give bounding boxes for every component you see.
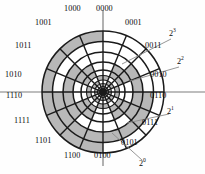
sector-code-label: 0110 (150, 91, 166, 100)
sector-code-label: 0001 (125, 18, 142, 27)
power-2-2-label: 22 (177, 55, 184, 66)
sector-code-label: 0101 (121, 138, 138, 147)
encoder-figure: 0000000100110010011001110101010011001101… (0, 0, 205, 174)
sector-code-label: 0011 (145, 41, 161, 50)
sector-code-label: 0111 (142, 118, 158, 127)
encoder-hub (100, 89, 106, 95)
hub-dot (100, 89, 106, 95)
sector-code-label: 1000 (64, 4, 81, 13)
sector-code-label: 1001 (35, 18, 52, 27)
power-2-1-label: 21 (167, 105, 174, 116)
power-2-0-label: 20 (139, 157, 146, 168)
sector-code-label: 1110 (6, 91, 22, 100)
sector-code-label: 1101 (35, 136, 51, 145)
sector-code-label: 1100 (64, 151, 80, 160)
sector-code-label: 0000 (96, 4, 113, 13)
sector-code-label: 0010 (150, 70, 167, 79)
power-2-3-label: 23 (169, 27, 176, 38)
sector-code-label: 1011 (15, 41, 31, 50)
sector-code-label: 0100 (94, 151, 111, 160)
sector-code-label: 1111 (14, 116, 30, 125)
sector-code-label: 1010 (5, 70, 22, 79)
